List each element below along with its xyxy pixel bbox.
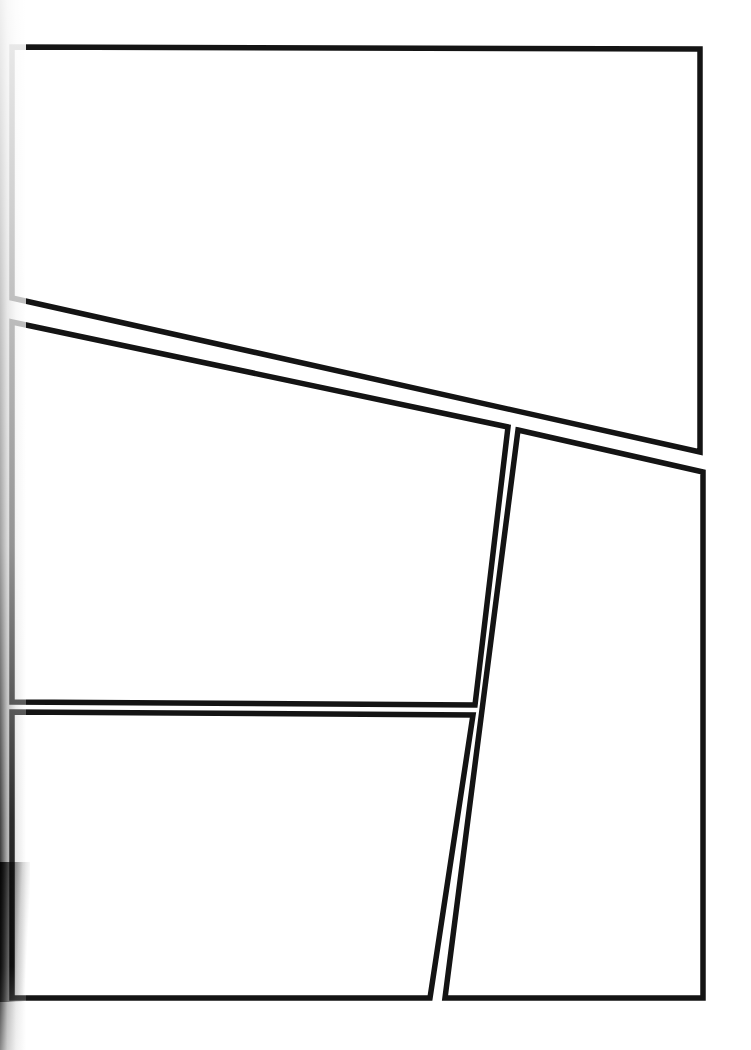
panel-4[interactable] <box>12 712 473 998</box>
panel-layout-canvas <box>0 0 751 1050</box>
scan-artifact-group <box>0 0 30 1050</box>
lower-left-scan-blotch <box>0 862 30 1002</box>
comic-page: Panel 1 Panel 2 Panel 3 Panel 4 <box>0 0 751 1050</box>
